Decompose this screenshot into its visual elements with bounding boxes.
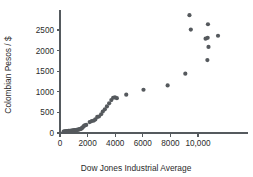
data-point xyxy=(115,96,119,100)
x-tick-label: 4000 xyxy=(106,139,125,148)
x-tick-label: 8000 xyxy=(161,139,180,148)
y-tick-label: 1500 xyxy=(36,67,55,76)
data-points xyxy=(61,13,220,134)
x-tick-label: 2000 xyxy=(78,139,97,148)
axes xyxy=(60,10,248,133)
data-point xyxy=(84,123,88,127)
x-axis-tick-labels: 0200040006000800010,000 xyxy=(58,139,211,148)
x-axis-title: Dow Jones Industrial Average xyxy=(81,163,192,173)
x-tick-label: 6000 xyxy=(134,139,153,148)
data-point xyxy=(166,83,170,87)
y-axis-tick-labels: 05001000150020002500 xyxy=(36,26,55,138)
y-axis-title: Colombian Pesos / $ xyxy=(3,36,13,114)
data-point xyxy=(206,22,210,26)
data-point xyxy=(206,45,210,49)
data-point xyxy=(187,13,191,17)
plot-canvas: 0200040006000800010,000 0500100015002000… xyxy=(0,0,253,177)
data-point xyxy=(206,36,210,40)
data-point xyxy=(216,34,220,38)
y-tick-label: 0 xyxy=(49,129,54,138)
scatter-plot-figure: 0200040006000800010,000 0500100015002000… xyxy=(0,0,253,177)
x-tick-label: 10,000 xyxy=(185,139,210,148)
tick-marks xyxy=(57,30,199,137)
data-point xyxy=(189,27,193,31)
y-tick-label: 2500 xyxy=(36,26,55,35)
data-point xyxy=(141,88,145,92)
x-tick-label: 0 xyxy=(58,139,63,148)
y-tick-label: 500 xyxy=(40,108,54,117)
data-point xyxy=(124,93,128,97)
data-point xyxy=(205,58,209,62)
data-point xyxy=(183,72,187,76)
y-tick-label: 1000 xyxy=(36,88,55,97)
y-tick-label: 2000 xyxy=(36,47,55,56)
